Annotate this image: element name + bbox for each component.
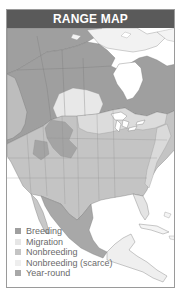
legend-label: Migration	[26, 237, 63, 247]
range-map-card: RANGE MAP	[6, 9, 175, 288]
legend-item-nonbreeding: Nonbreeding	[15, 247, 113, 258]
legend-label: Nonbreeding (scarce)	[26, 258, 113, 268]
year-round-swatch	[15, 270, 21, 276]
nonbreeding-scarce-swatch	[15, 260, 21, 266]
legend: Breeding Migration Nonbreeding Nonbreedi…	[15, 226, 113, 279]
legend-item-migration: Migration	[15, 237, 113, 248]
legend-item-breeding: Breeding	[15, 226, 113, 237]
legend-label: Year-round	[26, 268, 70, 278]
nonbreeding-swatch	[15, 249, 21, 255]
legend-label: Nonbreeding	[26, 247, 78, 257]
legend-item-year-round: Year-round	[15, 268, 113, 279]
migration-swatch	[15, 239, 21, 245]
breeding-swatch	[15, 228, 21, 234]
legend-item-nonbreeding-scarce: Nonbreeding (scarce)	[15, 258, 113, 269]
legend-label: Breeding	[26, 226, 62, 236]
range-map-title: RANGE MAP	[7, 10, 174, 28]
